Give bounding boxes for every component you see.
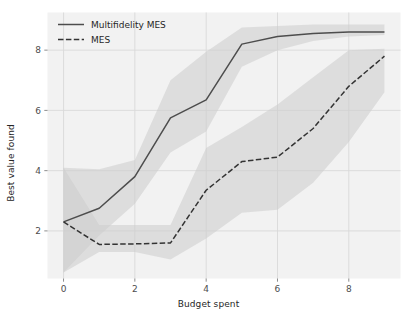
x-tick-label: 0 [61,284,67,294]
y-tick-label: 4 [35,166,41,176]
x-axis-label: Budget spent [0,299,417,309]
y-tick-label: 2 [35,226,41,236]
legend-label: Multifidelity MES [91,20,166,30]
line-chart: 024682468 Multifidelity MESMES [0,0,417,326]
x-tick-label: 4 [203,284,209,294]
y-tick-label: 6 [35,106,41,116]
x-tick-label: 2 [132,284,138,294]
y-tick-label: 8 [35,45,41,55]
x-tick-label: 6 [275,284,281,294]
y-axis-label: Best value found [6,0,16,326]
legend-label: MES [91,35,110,45]
chart-figure: 024682468 Multifidelity MESMES Budget sp… [0,0,417,326]
x-tick-label: 8 [346,284,352,294]
